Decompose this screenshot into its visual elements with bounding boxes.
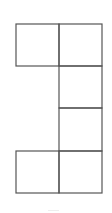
square-cell-bottom-left <box>16 151 59 193</box>
square-cell-bottom-right <box>59 151 102 193</box>
faint-mark <box>48 210 59 211</box>
square-cell-mid-upper-right <box>59 66 102 108</box>
square-cell-top-right <box>59 24 102 66</box>
square-cell-top-left <box>16 24 59 66</box>
square-cell-mid-lower-right <box>59 108 102 151</box>
square-net-diagram <box>0 0 112 213</box>
